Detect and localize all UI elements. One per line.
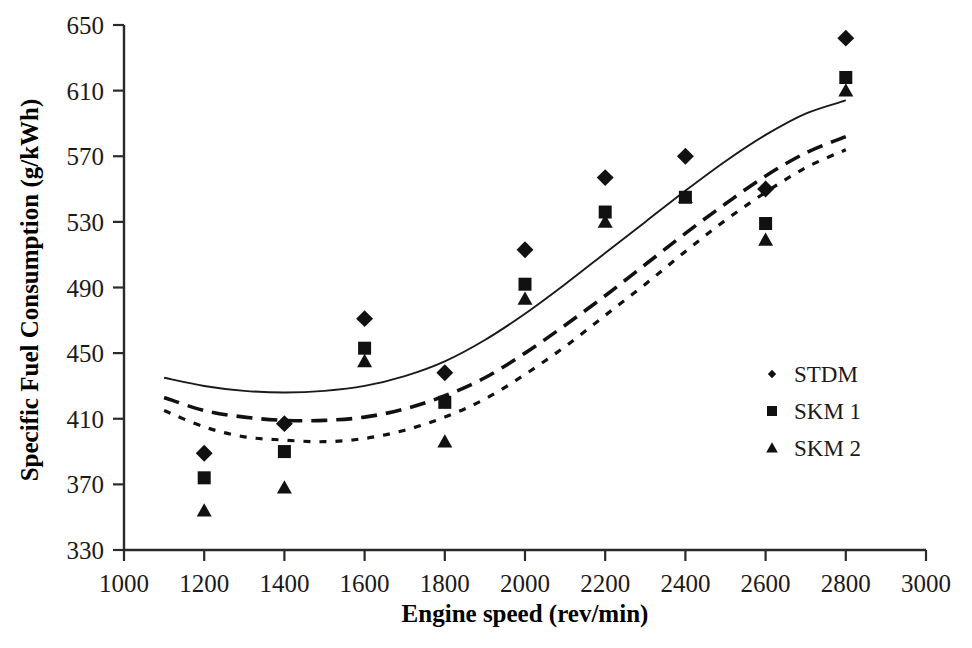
data-point-skm-1 <box>759 217 772 230</box>
legend-label: SKM 2 <box>794 436 861 461</box>
y-tick-label: 370 <box>67 471 105 498</box>
trend-lines-group <box>164 100 846 441</box>
legend-marker-diamond <box>768 370 776 378</box>
trend-line-stdm <box>164 100 846 392</box>
x-tick-label: 1600 <box>340 570 390 597</box>
y-axis-ticks <box>113 25 124 550</box>
data-point-skm-1 <box>278 445 291 458</box>
x-tick-label: 2200 <box>580 570 630 597</box>
x-tick-label: 1400 <box>259 570 309 597</box>
y-axis-title: Specific Fuel Consumption (g/kWh) <box>16 99 44 482</box>
data-point-skm-2 <box>838 83 853 96</box>
x-tick-label: 1200 <box>179 570 229 597</box>
y-tick-label: 610 <box>67 78 105 105</box>
x-tick-label: 2400 <box>660 570 710 597</box>
chart-container: 330370410450490530570610650 100012001400… <box>0 0 972 648</box>
y-tick-label: 410 <box>67 406 105 433</box>
data-point-skm-2 <box>277 480 292 493</box>
legend-marker-square <box>767 406 777 416</box>
trend-line-skm-2 <box>164 150 846 442</box>
data-point-stdm <box>837 30 854 47</box>
data-point-stdm <box>597 169 614 186</box>
legend-label: SKM 1 <box>794 399 861 424</box>
data-point-skm-1 <box>358 342 371 355</box>
legend-item-skm-2[interactable]: SKM 2 <box>766 436 861 461</box>
trend-line-skm-1 <box>164 137 846 421</box>
data-point-skm-2 <box>357 354 372 367</box>
y-tick-label: 570 <box>67 143 105 170</box>
data-point-skm-1 <box>198 471 211 484</box>
legend-marker-triangle <box>766 442 778 452</box>
legend-item-skm-1[interactable]: SKM 1 <box>767 399 861 424</box>
x-axis-ticks <box>124 550 926 561</box>
data-point-stdm <box>196 445 213 462</box>
data-point-skm-1 <box>438 396 451 409</box>
data-point-stdm <box>677 148 694 165</box>
data-point-skm-2 <box>758 232 773 245</box>
scatter-plot-svg: 330370410450490530570610650 100012001400… <box>0 0 972 648</box>
data-point-stdm <box>276 415 293 432</box>
legend-label: STDM <box>794 362 858 387</box>
data-point-skm-1 <box>839 71 852 84</box>
x-axis-title: Engine speed (rev/min) <box>402 600 649 628</box>
y-tick-label: 330 <box>67 537 105 564</box>
y-tick-label: 530 <box>67 209 105 236</box>
x-tick-label: 3000 <box>901 570 951 597</box>
data-point-stdm <box>436 364 453 381</box>
data-point-skm-2 <box>518 292 533 305</box>
legend: STDMSKM 1SKM 2 <box>766 362 861 461</box>
data-markers-group <box>196 30 855 517</box>
data-point-stdm <box>517 241 534 258</box>
y-tick-label: 450 <box>67 340 105 367</box>
data-point-skm-2 <box>437 434 452 447</box>
x-axis-tick-labels: 1000120014001600180020002200240026002800… <box>99 570 951 597</box>
x-tick-label: 2000 <box>500 570 550 597</box>
data-point-skm-2 <box>197 503 212 516</box>
data-point-skm-1 <box>519 278 532 291</box>
data-point-stdm <box>356 310 373 327</box>
y-tick-label: 490 <box>67 275 105 302</box>
y-tick-label: 650 <box>67 12 105 39</box>
legend-item-stdm[interactable]: STDM <box>768 362 858 387</box>
x-tick-label: 2600 <box>741 570 791 597</box>
y-axis-tick-labels: 330370410450490530570610650 <box>67 12 105 564</box>
x-tick-label: 1800 <box>420 570 470 597</box>
x-tick-label: 1000 <box>99 570 149 597</box>
x-tick-label: 2800 <box>821 570 871 597</box>
